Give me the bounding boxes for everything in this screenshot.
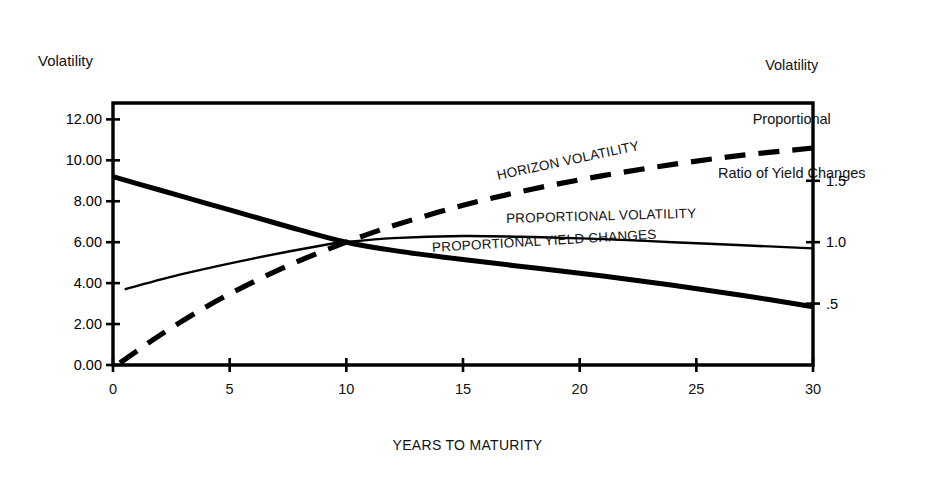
axes-frame bbox=[113, 103, 813, 365]
chart-figure: Volatility Volatility Proportional Ratio… bbox=[0, 0, 935, 480]
series-line bbox=[120, 148, 813, 363]
series-lines bbox=[113, 148, 813, 363]
plot-border bbox=[113, 103, 813, 365]
